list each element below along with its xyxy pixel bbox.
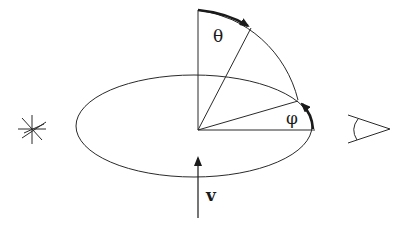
radius-phi [198, 101, 298, 130]
phi-label: φ [286, 108, 298, 128]
phi-arrow [302, 104, 313, 129]
orbit-ellipse [76, 75, 312, 177]
orbit-diagram: θ φ v [0, 0, 405, 230]
theta-label: θ [213, 26, 223, 46]
eye-icon [348, 115, 390, 143]
velocity-label: v [205, 185, 217, 205]
quarter-arc [198, 10, 298, 100]
star-icon [18, 115, 46, 144]
